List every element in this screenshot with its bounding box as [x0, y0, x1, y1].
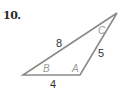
- side-label-ab: 4: [50, 78, 56, 90]
- angle-label-c: C: [98, 25, 106, 36]
- triangle-shape: [23, 13, 117, 75]
- side-label-ac: 5: [98, 47, 104, 59]
- triangle-figure: 8 5 4 B A C: [0, 0, 126, 93]
- side-label-bc: 8: [56, 37, 62, 49]
- angle-label-b: B: [43, 63, 50, 74]
- angle-label-a: A: [71, 63, 79, 74]
